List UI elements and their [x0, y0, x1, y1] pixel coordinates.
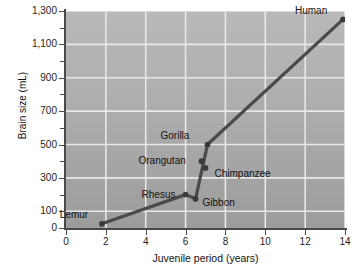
y-tick-major: [59, 11, 64, 12]
y-tick-label: 1,100: [32, 38, 57, 49]
x-tick-label: 14: [330, 236, 359, 247]
y-tick-label: 1,300: [32, 5, 57, 16]
y-tick-label: 300: [40, 172, 57, 183]
x-tick-major: [186, 230, 187, 235]
y-tick-label: 100: [40, 205, 57, 216]
data-line: [102, 19, 343, 223]
y-tick-minor: [60, 128, 64, 129]
y-tick-major: [59, 111, 64, 112]
x-tick-label: 8: [210, 236, 240, 247]
y-tick-minor: [60, 195, 64, 196]
data-point-gibbon: [193, 196, 199, 202]
chart-figure: 01003005007009001,1001,300 02468101214 L…: [0, 0, 359, 271]
y-tick-label: 500: [40, 139, 57, 150]
y-tick-major: [59, 178, 64, 179]
y-tick-label: 700: [40, 105, 57, 116]
x-tick-label: 6: [171, 236, 201, 247]
y-tick-major: [59, 228, 64, 229]
x-tick-major: [146, 230, 147, 235]
x-tick-label: 2: [91, 236, 121, 247]
x-tick-label: 4: [131, 236, 161, 247]
y-tick-label: 900: [40, 72, 57, 83]
point-label-chimpanzee: Chimpanzee: [215, 169, 271, 179]
x-tick-major: [66, 230, 67, 235]
point-label-lemur: Lemur: [60, 210, 88, 220]
data-point-rhesus: [183, 192, 189, 198]
y-axis-line: [64, 9, 66, 230]
point-label-human: Human: [295, 6, 327, 16]
point-label-orangutan: Orangutan: [139, 156, 186, 166]
y-axis-title: Brain size (mL): [17, 36, 28, 176]
y-tick-major: [59, 145, 64, 146]
y-tick-major: [59, 78, 64, 79]
horizontal-gridlines: [66, 11, 345, 211]
data-markers: [99, 16, 345, 226]
plot-area: [66, 11, 345, 228]
x-tick-major: [305, 230, 306, 235]
data-point-chimpanzee: [203, 165, 209, 171]
x-tick-major: [265, 230, 266, 235]
x-tick-major: [345, 230, 346, 235]
point-label-gibbon: Gibbon: [203, 198, 235, 208]
x-tick-label: 0: [51, 236, 81, 247]
data-point-orangutan: [199, 158, 205, 164]
x-tick-major: [225, 230, 226, 235]
x-tick-label: 10: [250, 236, 280, 247]
y-tick-minor: [60, 61, 64, 62]
plot-svg: [66, 11, 345, 228]
data-point-gorilla: [205, 142, 211, 148]
y-tick-label: 0: [51, 222, 57, 233]
x-axis-title: Juvenile period (years): [66, 252, 345, 264]
y-tick-major: [59, 44, 64, 45]
x-tick-major: [106, 230, 107, 235]
point-label-gorilla: Gorilla: [160, 131, 189, 141]
y-tick-minor: [60, 28, 64, 29]
y-tick-minor: [60, 94, 64, 95]
y-tick-minor: [60, 161, 64, 162]
data-point-lemur: [99, 221, 105, 227]
x-tick-label: 12: [290, 236, 320, 247]
point-label-rhesus: Rhesus: [142, 190, 176, 200]
